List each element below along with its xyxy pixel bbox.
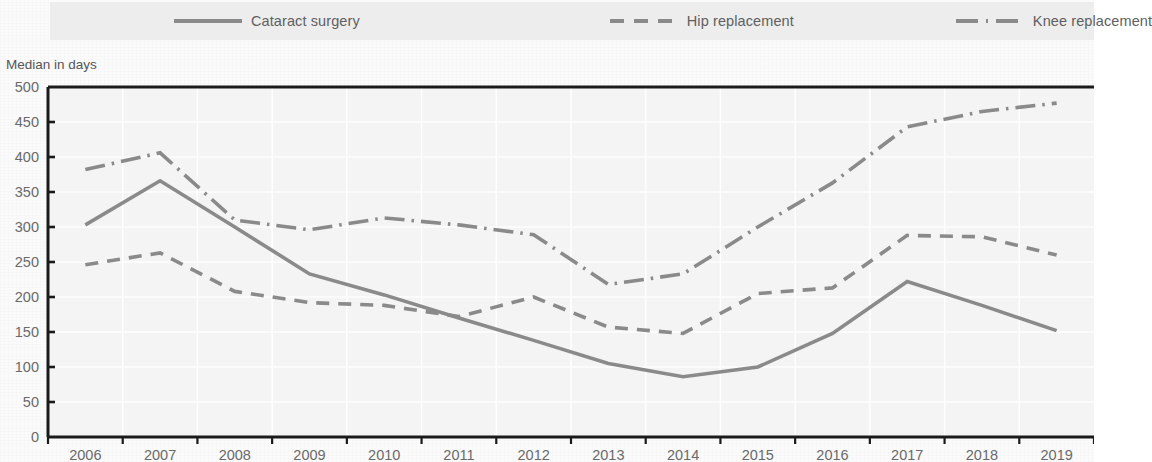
svg-text:2014: 2014 (667, 447, 699, 462)
svg-text:500: 500 (15, 79, 39, 95)
svg-text:2010: 2010 (368, 447, 400, 462)
svg-text:300: 300 (15, 219, 39, 235)
svg-text:2009: 2009 (293, 447, 325, 462)
svg-text:2012: 2012 (518, 447, 550, 462)
svg-text:50: 50 (23, 394, 39, 410)
svg-text:0: 0 (31, 429, 39, 445)
svg-text:2006: 2006 (69, 447, 101, 462)
svg-text:150: 150 (15, 324, 39, 340)
svg-text:250: 250 (15, 254, 39, 270)
svg-text:450: 450 (15, 114, 39, 130)
svg-text:2015: 2015 (742, 447, 774, 462)
svg-text:2011: 2011 (443, 447, 474, 462)
y-axis-tick-labels: 050100150200250300350400450500 (15, 79, 39, 445)
svg-text:2018: 2018 (966, 447, 998, 462)
svg-text:2016: 2016 (816, 447, 848, 462)
svg-text:350: 350 (15, 184, 39, 200)
svg-text:400: 400 (15, 149, 39, 165)
svg-text:2007: 2007 (144, 447, 176, 462)
x-axis-tick-labels: 2006200720082009201020112012201320142015… (69, 447, 1073, 462)
svg-text:100: 100 (15, 359, 39, 375)
svg-text:2013: 2013 (592, 447, 624, 462)
svg-text:200: 200 (15, 289, 39, 305)
svg-text:2008: 2008 (219, 447, 251, 462)
svg-text:2019: 2019 (1041, 447, 1073, 462)
svg-text:2017: 2017 (891, 447, 923, 462)
